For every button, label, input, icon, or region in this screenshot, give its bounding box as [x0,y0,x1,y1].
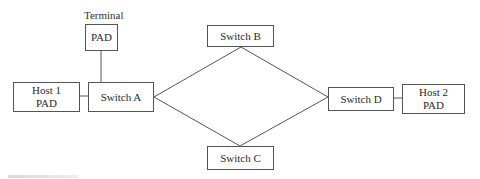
switch-d-text: Switch D [340,93,381,106]
switch-d-node: Switch D [328,87,394,111]
terminal-label: Terminal [84,9,124,21]
switch-c-node: Switch C [207,146,274,170]
host1-pad-node: Host 1 PAD [13,82,80,112]
switch-c-text: Switch C [220,152,261,165]
network-diagram: Terminal PAD Host 1 PAD Switch A Switch … [0,0,480,179]
edge-switch-a-switch-c [154,97,240,146]
host2-pad-line1: Host 2 [419,86,448,99]
switch-b-text: Switch B [220,30,261,43]
edge-switch-a-switch-b [154,47,241,97]
edge-switch-b-switch-d [241,47,328,97]
switch-b-node: Switch B [207,25,274,47]
switch-a-text: Switch A [101,91,142,104]
terminal-pad-node: PAD [85,24,118,51]
host2-pad-node: Host 2 PAD [402,84,465,114]
host1-pad-line2: PAD [36,97,57,110]
edge-switch-c-switch-d [240,97,328,146]
host1-pad-line1: Host 1 [32,84,61,97]
faded-caption [8,175,78,178]
terminal-pad-text: PAD [91,31,112,44]
switch-a-node: Switch A [88,82,154,112]
host2-pad-line2: PAD [423,99,444,112]
